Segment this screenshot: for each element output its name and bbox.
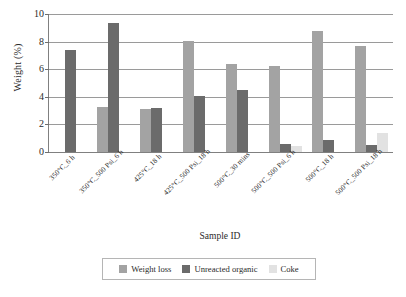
y-tick-label: 2 — [39, 119, 44, 129]
bar-group — [350, 14, 393, 152]
bar-group — [92, 14, 135, 152]
x-tick-label: 500°C_500 Psi_6 h — [249, 147, 297, 195]
bar-group — [221, 14, 264, 152]
x-tick-label: 500°C_500 Psi_18 h — [333, 147, 383, 197]
bar — [269, 66, 280, 152]
chart-legend: Weight lossUnreacted organicCoke — [102, 258, 316, 280]
legend-item[interactable]: Weight loss — [119, 264, 171, 274]
bar — [355, 46, 366, 152]
y-tick-label: 8 — [39, 37, 44, 47]
bar — [237, 90, 248, 152]
bar — [183, 41, 194, 152]
y-axis-tick-labels: 0246810 — [22, 14, 44, 152]
bar-group — [135, 14, 178, 152]
x-tick-label: 425°C_18 h — [131, 152, 163, 184]
legend-label: Coke — [281, 264, 299, 274]
bar — [108, 23, 119, 152]
bars-layer — [49, 14, 393, 152]
y-axis-title: Weight (%) — [12, 23, 23, 113]
legend-swatch-icon — [119, 265, 127, 273]
x-tick-label: 500°C_30 mins — [212, 150, 252, 190]
x-tick-label: 425°C_500 Psi_18 h — [161, 147, 211, 197]
bar-chart-figure: Weight (%) 0246810 350°C_6 h350°C_500 Ps… — [0, 0, 406, 297]
legend-item[interactable]: Unreacted organic — [182, 264, 257, 274]
legend-item[interactable]: Coke — [269, 264, 299, 274]
bar — [194, 96, 205, 152]
bar — [226, 64, 237, 152]
bar — [140, 109, 151, 152]
x-axis-title: Sample ID — [48, 231, 392, 241]
bar — [151, 108, 162, 152]
y-tick-label: 10 — [34, 9, 44, 19]
plot-area — [48, 14, 393, 153]
legend-swatch-icon — [269, 265, 277, 273]
legend-swatch-icon — [182, 265, 190, 273]
bar — [323, 140, 334, 152]
bar-group — [49, 14, 92, 152]
bar — [312, 31, 323, 152]
x-axis-tick-labels: 350°C_6 h350°C_500 Psi_6 h425°C_18 h425°… — [48, 153, 392, 228]
bar — [65, 50, 76, 152]
bar — [97, 107, 108, 152]
y-tick-label: 6 — [39, 64, 44, 74]
bar-group — [178, 14, 221, 152]
legend-label: Unreacted organic — [194, 264, 257, 274]
y-tick-label: 0 — [39, 147, 44, 157]
legend-label: Weight loss — [131, 264, 171, 274]
y-tick-label: 4 — [39, 92, 44, 102]
x-tick-label: 350°C_500 Psi_6 h — [77, 147, 125, 195]
x-tick-label: 350°C_6 h — [47, 153, 76, 182]
bar-group — [264, 14, 307, 152]
x-tick-label: 500°C_18 h — [303, 152, 335, 184]
bar-group — [307, 14, 350, 152]
